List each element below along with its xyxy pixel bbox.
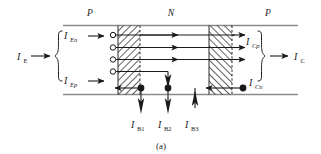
label-base-current-3: I B3 <box>184 119 199 132</box>
label-collector-current: I C <box>293 51 305 64</box>
collector-brace <box>258 31 265 81</box>
label-base-current-2: I B2 <box>157 119 172 132</box>
pnp-transistor-diagram: P N P <box>0 0 321 154</box>
label-IB2-symbol: I <box>157 119 162 130</box>
label-IEp-subscript: Ep <box>69 81 78 88</box>
label-IB3-subscript: B3 <box>191 125 199 132</box>
label-IEn-symbol: I <box>63 30 68 41</box>
label-IB2-subscript: B2 <box>164 125 172 132</box>
label-emitter-hole-current: I Ep <box>63 75 78 88</box>
label-collector-hole-current: I Cp <box>245 36 260 49</box>
hole-icon <box>110 57 115 62</box>
label-emitter-electron-current: I En <box>63 30 77 43</box>
emitter-brace <box>55 31 62 81</box>
label-ICp-symbol: I <box>245 36 250 47</box>
figure-canvas: P N P <box>0 0 321 154</box>
label-IE-subscript: E <box>24 57 28 64</box>
label-IEn-subscript: En <box>69 36 77 43</box>
label-ICn-subscript: Cn <box>255 83 263 90</box>
hole-icon <box>110 32 115 37</box>
label-IB1-symbol: I <box>130 119 135 130</box>
label-IB3-symbol: I <box>184 119 189 130</box>
label-collector-electron-current: I Cn <box>248 77 263 90</box>
region-label-base: N <box>167 8 175 18</box>
region-label-emitter: P <box>86 8 93 18</box>
label-IB1-subscript: B1 <box>137 125 145 132</box>
figure-caption: (a) <box>156 141 166 151</box>
label-base-current-1: I B1 <box>130 119 145 132</box>
label-IEp-symbol: I <box>63 75 68 86</box>
label-ICn-symbol: I <box>248 77 253 88</box>
region-label-collector: P <box>264 8 271 18</box>
hole-icon <box>110 69 115 74</box>
label-emitter-current: I E <box>16 51 28 64</box>
label-IC-subscript: C <box>301 57 305 64</box>
label-ICp-subscript: Cp <box>252 42 260 49</box>
hole-icon <box>110 45 115 50</box>
label-IE-symbol: I <box>16 51 21 62</box>
label-IC-symbol: I <box>293 51 298 62</box>
hole-carrier-symbols <box>110 32 115 74</box>
